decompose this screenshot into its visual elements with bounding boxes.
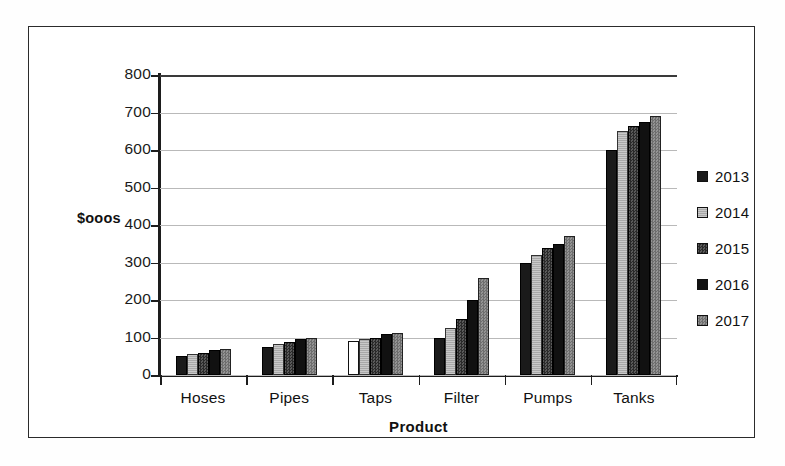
bar-pipes-2016: [295, 339, 306, 375]
x-axis-category-labels: HosesPipesTapsFilterPumpsTanks: [160, 389, 677, 407]
bar-filter-2015: [456, 319, 467, 375]
y-tick-label-800: 800: [125, 65, 151, 83]
bar-filter-2014: [445, 328, 456, 375]
bar-tanks-2016: [639, 122, 650, 375]
chart-page: $ooos 8007006005004003002001000 HosesPip…: [0, 0, 785, 466]
legend-swatch-2014: [697, 207, 708, 218]
bar-tanks-2014: [617, 131, 628, 375]
bar-taps-2013: [348, 341, 359, 375]
y-tick-700: [151, 113, 160, 115]
legend: 20132014201520162017: [697, 168, 749, 329]
y-tick-200: [151, 300, 160, 302]
y-tick-label-700: 700: [125, 103, 151, 121]
y-tick-400: [151, 225, 160, 227]
bar-group-pumps: [505, 75, 591, 375]
x-label-hoses: Hoses: [160, 389, 246, 407]
y-tick-label-300: 300: [125, 253, 151, 271]
bar-pipes-2015: [284, 342, 295, 375]
bar-pumps-2013: [520, 263, 531, 376]
y-tick-label-500: 500: [125, 178, 151, 196]
bar-group-tanks: [591, 75, 677, 375]
bar-hoses-2014: [187, 354, 198, 375]
x-tick-6: [676, 375, 678, 385]
y-tick-label-100: 100: [125, 328, 151, 346]
y-tick-label-400: 400: [125, 215, 151, 233]
bar-group-hoses: [160, 75, 246, 375]
y-tick-label-600: 600: [125, 140, 151, 158]
x-tick-4: [505, 375, 507, 385]
bar-taps-2017: [392, 333, 403, 375]
bar-pipes-2017: [306, 338, 317, 376]
legend-label-2017: 2017: [715, 312, 749, 329]
x-tick-5: [591, 375, 593, 385]
x-axis-title: Product: [160, 418, 677, 435]
bar-tanks-2017: [650, 116, 661, 375]
x-label-pipes: Pipes: [246, 389, 332, 407]
legend-swatch-2016: [697, 279, 708, 290]
y-axis-tick-labels: 8007006005004003002001000: [89, 75, 151, 375]
bar-group-taps: [332, 75, 418, 375]
bar-hoses-2016: [209, 350, 220, 376]
plot-area: [160, 75, 677, 375]
legend-swatch-2017: [697, 315, 708, 326]
y-tick-label-200: 200: [125, 290, 151, 308]
y-tick-800: [151, 75, 160, 77]
bar-filter-2017: [478, 278, 489, 376]
legend-item-2013[interactable]: 2013: [697, 168, 749, 185]
y-tick-300: [151, 263, 160, 265]
x-tick-3: [419, 375, 421, 385]
bar-hoses-2013: [176, 356, 187, 375]
y-tick-500: [151, 188, 160, 190]
bar-taps-2015: [370, 338, 381, 376]
x-label-taps: Taps: [332, 389, 418, 407]
x-label-tanks: Tanks: [591, 389, 677, 407]
y-tick-100: [151, 338, 160, 340]
bar-tanks-2015: [628, 126, 639, 375]
bar-filter-2016: [467, 300, 478, 375]
bar-group-filter: [419, 75, 505, 375]
legend-label-2015: 2015: [715, 240, 749, 257]
legend-label-2013: 2013: [715, 168, 749, 185]
x-tick-0: [160, 375, 162, 385]
legend-item-2016[interactable]: 2016: [697, 276, 749, 293]
legend-item-2014[interactable]: 2014: [697, 204, 749, 221]
bar-groups: [160, 75, 677, 375]
chart-frame: $ooos 8007006005004003002001000 HosesPip…: [28, 26, 755, 438]
y-tick-label-0: 0: [142, 365, 151, 383]
bar-group-pipes: [246, 75, 332, 375]
legend-item-2017[interactable]: 2017: [697, 312, 749, 329]
legend-swatch-2015: [697, 243, 708, 254]
bar-hoses-2017: [220, 349, 231, 375]
bar-tanks-2013: [606, 150, 617, 375]
bar-pumps-2014: [531, 255, 542, 375]
bar-pipes-2013: [262, 347, 273, 375]
bar-taps-2016: [381, 334, 392, 375]
bar-filter-2013: [434, 338, 445, 376]
bar-pumps-2016: [553, 244, 564, 375]
x-tick-2: [332, 375, 334, 385]
legend-swatch-2013: [697, 171, 708, 182]
bar-pumps-2015: [542, 248, 553, 376]
x-tick-1: [246, 375, 248, 385]
legend-label-2016: 2016: [715, 276, 749, 293]
legend-item-2015[interactable]: 2015: [697, 240, 749, 257]
bar-taps-2014: [359, 339, 370, 375]
y-tick-0: [151, 375, 160, 377]
bar-pumps-2017: [564, 236, 575, 375]
x-label-filter: Filter: [419, 389, 505, 407]
x-label-pumps: Pumps: [505, 389, 591, 407]
y-tick-600: [151, 150, 160, 152]
bar-hoses-2015: [198, 353, 209, 376]
bar-pipes-2014: [273, 344, 284, 375]
legend-label-2014: 2014: [715, 204, 749, 221]
